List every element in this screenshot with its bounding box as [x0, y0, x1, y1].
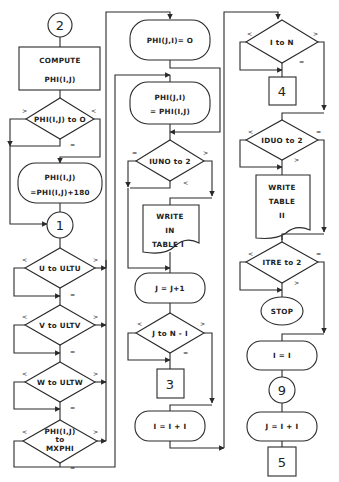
flowchart: 2 COMPUTE PHI(I,J) PHI(I,J) to O > < = P…: [0, 0, 339, 482]
decision-text: PHI(I,J) to O: [34, 115, 86, 124]
branch-left-label: <: [247, 30, 252, 37]
offpage-connector-5: 5: [268, 447, 296, 476]
document-write-table-2: WRITE TABLE II: [256, 175, 310, 238]
connector-label: 9: [278, 383, 286, 398]
branch-right-label: >: [313, 30, 318, 37]
process-text: J = J+1: [154, 284, 185, 293]
branch-left-label: <: [248, 128, 253, 135]
branch-bottom-label: <: [183, 179, 188, 186]
process-text: I = I + I: [154, 422, 187, 431]
branch-bottom-label: =: [70, 404, 75, 411]
branch-bottom-label: =: [70, 141, 75, 148]
branch-bottom-label: =: [183, 349, 188, 356]
branch-right-label: >: [93, 428, 98, 435]
decision-text: J to N - I: [151, 329, 188, 338]
branch-bottom-label: =: [299, 58, 304, 65]
branch-right-label: =: [316, 128, 321, 135]
decision-iduo-to-2: IDUO to 2 < = >: [246, 120, 321, 163]
decision-text: I to N: [270, 38, 294, 47]
column-3: I to N < > = 4 IDUO to 2 < = > WRITE TAB…: [240, 20, 324, 476]
decision-j-to-n-minus-1: J to N - I < > =: [136, 313, 205, 356]
process-j-assign: J = I + I: [247, 412, 317, 441]
branch-left-label: <: [22, 370, 27, 377]
document-line2: IN: [165, 226, 174, 235]
document-line1: WRITE: [268, 183, 295, 192]
branch-right-label: >: [200, 320, 205, 327]
compute-label: COMPUTE: [39, 56, 81, 65]
document-line2: TABLE: [269, 197, 295, 206]
process-line1: PHI(I,J): [44, 173, 75, 182]
branch-bottom-label: =: [70, 348, 75, 355]
offpage-connector-4: 4: [269, 77, 296, 105]
connector-label: 3: [166, 377, 174, 392]
offpage-connector-3: 3: [157, 369, 184, 398]
decision-text: U to ULTU: [39, 264, 81, 273]
decision-itre-to-2: ITRE to 2 < = >: [246, 242, 321, 286]
document-line3: II: [279, 211, 285, 220]
document-line1: WRITE: [156, 212, 183, 221]
decision-iuno-to-2: IUNO to 2 = > <: [132, 140, 208, 186]
branch-bottom-label: =: [70, 291, 75, 298]
decision-text: W to ULTW: [37, 378, 83, 387]
decision-i-to-n: I to N < > =: [246, 20, 318, 65]
decision-phi-to-zero: PHI(I,J) to O > < =: [22, 98, 96, 148]
decision-line2: to: [56, 435, 65, 444]
branch-bottom-label: >: [294, 279, 299, 286]
branch-right-label: >: [93, 256, 98, 263]
branch-left-label: <: [22, 428, 27, 435]
branch-left-label: =: [132, 149, 137, 156]
branch-left-label: <: [248, 250, 253, 257]
branch-right-label: <: [91, 107, 96, 114]
decision-text: V to ULTV: [39, 321, 80, 330]
branch-left-label: <: [22, 256, 27, 263]
connector-label: 2: [56, 18, 64, 33]
branch-right-label: >: [203, 149, 208, 156]
decision-text: IUNO to 2: [149, 157, 191, 166]
process-text: PHI(J,I)= O: [147, 36, 194, 45]
connector-label: 4: [278, 84, 286, 99]
process-text: I = I: [273, 351, 291, 360]
branch-bottom-label: >: [294, 156, 299, 163]
process-line1: PHI(J,I): [154, 93, 185, 102]
process-add-180: PHI(I,J) =PHI(I,J)+180: [18, 163, 102, 203]
connector-label: 1: [56, 218, 64, 233]
branch-left-label: >: [22, 107, 27, 114]
connector-9: 9: [269, 377, 295, 403]
process-i-equals-1: I = I: [247, 341, 317, 370]
connector-2: 2: [48, 13, 72, 37]
process-phi-ji-zero: PHI(J,I)= O: [130, 20, 210, 60]
decision-text: IDUO to 2: [261, 136, 303, 145]
connector-label: 5: [278, 455, 286, 470]
branch-right-label: >: [93, 313, 98, 320]
process-j-increment: J = J+1: [135, 273, 205, 303]
compute-value: PHI(I,J): [44, 75, 75, 84]
decision-text: ITRE to 2: [262, 258, 301, 267]
process-line2: = PHI(I,J): [150, 107, 190, 116]
decision-line3: MXPHI: [46, 444, 74, 453]
branch-left-label: <: [137, 320, 142, 327]
branch-right-label: =: [316, 250, 321, 257]
document-line3: TABLE I: [152, 240, 184, 249]
terminal-stop: STOP: [261, 297, 303, 325]
process-phi-ji-assign: PHI(J,I) = PHI(I,J): [130, 82, 210, 124]
document-write-table-1: WRITE IN TABLE I: [143, 205, 199, 253]
compute-box: COMPUTE PHI(I,J): [19, 47, 100, 90]
process-text: J = I + I: [265, 422, 299, 431]
branch-right-label: >: [93, 370, 98, 377]
process-i-increment: I = I + I: [135, 411, 205, 441]
branch-left-label: <: [22, 313, 27, 320]
process-line2: =PHI(I,J)+180: [30, 188, 90, 197]
connector-1: 1: [47, 212, 73, 238]
terminal-text: STOP: [271, 307, 294, 316]
